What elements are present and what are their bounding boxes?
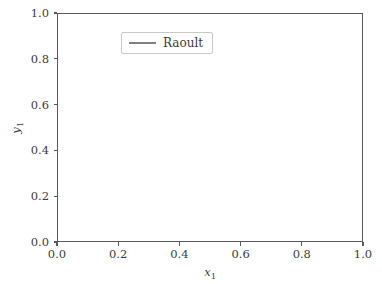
x-tick-mark (362, 242, 363, 246)
x-tick-mark (118, 242, 119, 246)
x-axis-label-symbol: x (204, 265, 211, 279)
y-tick-label: 0.2 (31, 189, 49, 203)
x-tick-label: 0.4 (170, 247, 188, 261)
y-tick-label: 0.0 (31, 235, 49, 249)
x-tick-label: 1.0 (354, 247, 372, 261)
x-axis-label: x1 (204, 265, 216, 279)
x-tick-label: 0.2 (109, 247, 127, 261)
x-tick-label: 0.0 (48, 247, 66, 261)
plot-axes-frame: Raoult (57, 13, 363, 242)
y-tick-label: 1.0 (31, 6, 49, 20)
y-tick-label: 0.8 (31, 52, 49, 66)
y-tick-label: 0.6 (31, 98, 49, 112)
y-tick-mark (54, 150, 58, 151)
x-tick-label: 0.8 (293, 247, 311, 261)
y-axis-label-subscript: 1 (16, 122, 25, 127)
y-tick-mark (54, 58, 58, 59)
y-tick-mark (54, 241, 58, 242)
x-tick-mark (179, 242, 180, 246)
y-tick-label: 0.4 (31, 143, 49, 157)
x-tick-mark (301, 242, 302, 246)
legend-line-swatch-raoult (129, 42, 156, 44)
vle-xy-diagram-figure: Raoult 0.00.20.40.60.81.00.00.20.40.60.8… (0, 0, 382, 284)
legend-box: Raoult (121, 32, 213, 54)
x-axis-label-subscript: 1 (211, 272, 216, 281)
x-tick-mark (240, 242, 241, 246)
y-axis-label-symbol: y (9, 127, 23, 134)
legend-label-raoult: Raoult (163, 37, 203, 49)
y-axis-label: y1 (9, 122, 23, 134)
y-tick-mark (54, 104, 58, 105)
y-tick-mark (54, 12, 58, 13)
y-tick-mark (54, 196, 58, 197)
x-tick-label: 0.6 (231, 247, 249, 261)
